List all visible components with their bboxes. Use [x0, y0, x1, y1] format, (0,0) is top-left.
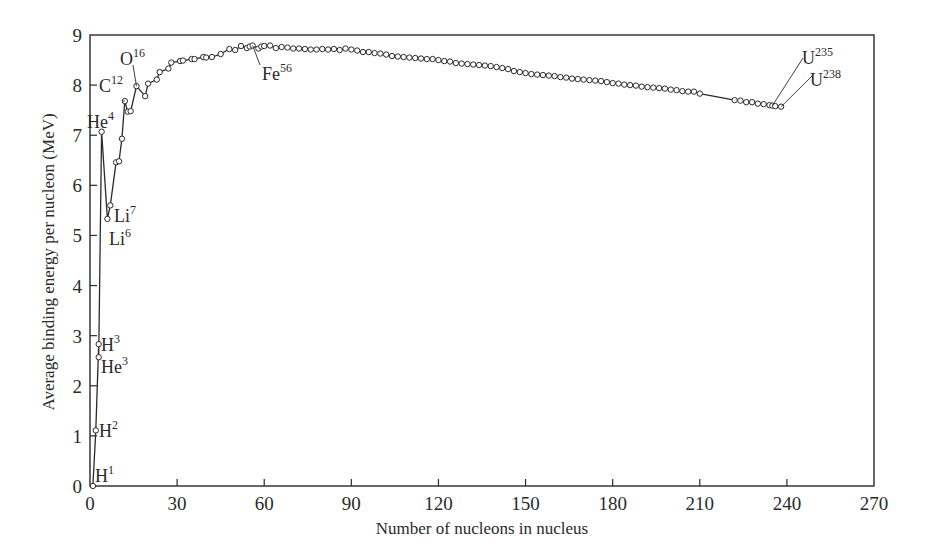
data-point-marker — [157, 69, 162, 74]
data-point-marker — [360, 49, 365, 54]
data-point-marker — [325, 47, 330, 52]
data-point-marker — [651, 85, 656, 90]
nuclide-label-li7: Li7 — [114, 203, 136, 226]
annotation-leader-line — [133, 65, 136, 86]
data-point-marker — [738, 98, 743, 103]
x-tick-label: 180 — [598, 493, 627, 514]
x-tick-label: 210 — [686, 493, 715, 514]
nuclide-label-h1: H1 — [95, 463, 114, 486]
data-point-marker — [145, 81, 150, 86]
data-point-marker — [505, 66, 510, 71]
y-tick-label: 2 — [73, 376, 83, 397]
data-point-marker — [761, 101, 766, 106]
data-point-marker — [575, 76, 580, 81]
binding-energy-line — [93, 46, 781, 487]
data-point-marker — [383, 52, 388, 57]
data-point-marker — [169, 60, 174, 65]
data-point-marker — [622, 82, 627, 87]
x-tick-label: 240 — [773, 493, 802, 514]
data-point-marker — [680, 88, 685, 93]
data-point-marker — [639, 84, 644, 89]
data-point-marker — [279, 44, 284, 49]
data-point-marker — [581, 77, 586, 82]
y-axis-title: Average binding energy per nucleon (MeV) — [39, 113, 58, 410]
data-point-marker — [552, 73, 557, 78]
data-point-marker — [128, 108, 133, 113]
data-point-marker — [232, 47, 237, 52]
y-tick-label: 9 — [73, 25, 83, 46]
data-point-marker — [616, 81, 621, 86]
data-point-marker — [238, 43, 243, 48]
x-tick-label: 270 — [860, 493, 889, 514]
nuclide-label-he3: He3 — [101, 354, 128, 377]
y-tick-label: 0 — [73, 476, 83, 497]
y-tick-label: 8 — [73, 75, 83, 96]
data-point-marker — [534, 72, 539, 77]
data-point-marker — [593, 78, 598, 83]
data-point-marker — [108, 203, 113, 208]
data-point-marker — [267, 43, 272, 48]
nuclide-annotations: H1H2H3He3He4Li6Li7C12O16Fe56U235U238 — [87, 45, 841, 486]
data-point-marker — [511, 68, 516, 73]
data-point-marker — [366, 49, 371, 54]
nuclide-label-li6: Li6 — [109, 226, 131, 249]
y-tick-label: 7 — [73, 125, 83, 146]
nuclide-label-u235: U235 — [802, 45, 833, 68]
data-point-marker — [180, 58, 185, 63]
data-point-marker — [523, 70, 528, 75]
annotation-leader-line — [772, 58, 803, 106]
data-point-marker — [296, 46, 301, 51]
data-point-marker — [471, 62, 476, 67]
data-point-marker — [291, 46, 296, 51]
y-axis-ticks: 0123456789 — [73, 25, 98, 497]
data-point-marker — [378, 51, 383, 56]
data-point-marker — [627, 82, 632, 87]
x-tick-label: 90 — [342, 493, 361, 514]
y-tick-label: 1 — [73, 426, 83, 447]
y-tick-label: 6 — [73, 175, 83, 196]
data-point-marker — [320, 46, 325, 51]
data-point-marker — [331, 46, 336, 51]
data-point-marker — [529, 71, 534, 76]
data-point-marker — [564, 75, 569, 80]
nuclide-label-fe56: Fe56 — [262, 61, 292, 84]
data-point-marker — [116, 159, 121, 164]
annotation-leader-line — [781, 76, 812, 107]
data-point-marker — [142, 93, 147, 98]
data-point-marker — [685, 89, 690, 94]
data-point-marker — [697, 91, 702, 96]
x-tick-label: 120 — [424, 493, 453, 514]
data-point-marker — [732, 97, 737, 102]
data-point-marker — [488, 63, 493, 68]
data-point-marker — [633, 83, 638, 88]
data-point-marker — [691, 89, 696, 94]
data-point-marker — [372, 50, 377, 55]
data-point-marker — [209, 54, 214, 59]
data-point-marker — [517, 69, 522, 74]
binding-energy-chart: 0306090120150180210240270 0123456789 H1H… — [0, 0, 929, 560]
data-point-marker — [308, 47, 313, 52]
data-point-marker — [668, 87, 673, 92]
data-point-marker — [119, 136, 124, 141]
data-point-marker — [459, 61, 464, 66]
data-point-marker — [604, 79, 609, 84]
data-point-marker — [314, 47, 319, 52]
data-point-marker — [166, 66, 171, 71]
data-point-marker — [494, 64, 499, 69]
data-point-marker — [273, 45, 278, 50]
nuclide-label-h3: H3 — [101, 332, 120, 355]
data-point-marker — [262, 43, 267, 48]
data-point-marker — [430, 56, 435, 61]
data-point-marker — [285, 45, 290, 50]
data-point-marker — [337, 47, 342, 52]
data-point-marker — [302, 46, 307, 51]
data-point-marker — [227, 46, 232, 51]
data-point-marker — [395, 54, 400, 59]
data-point-marker — [401, 54, 406, 59]
data-point-marker — [662, 86, 667, 91]
data-point-marker — [453, 60, 458, 65]
data-point-marker — [656, 85, 661, 90]
data-point-marker — [447, 59, 452, 64]
data-point-marker — [749, 99, 754, 104]
data-point-marker — [192, 56, 197, 61]
